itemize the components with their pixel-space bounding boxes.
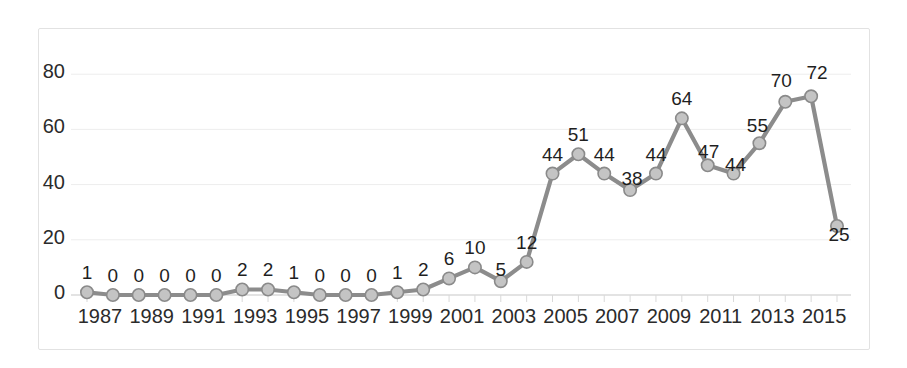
x-axis-tick-label: 2003 [492,305,537,328]
x-axis-tick-label: 1997 [336,305,381,328]
data-point-label: 12 [516,232,537,254]
data-point-label: 55 [747,115,768,137]
data-point-label: 5 [495,259,506,281]
data-point-marker [210,289,222,301]
x-axis-tick-label: 2013 [750,305,795,328]
data-point-label: 51 [568,124,589,146]
data-point-label: 0 [185,265,196,287]
data-point-marker [469,261,481,273]
data-point-marker [184,289,196,301]
data-point-label: 25 [828,224,849,246]
data-point-label: 1 [289,262,300,284]
x-axis-tick-label: 2015 [802,305,847,328]
data-point-marker [417,283,429,295]
data-point-marker [598,167,610,179]
data-point-label: 70 [771,70,792,92]
data-point-label: 0 [340,265,351,287]
x-axis-tick-label: 1999 [388,305,433,328]
data-point-marker [262,283,274,295]
data-point-label: 10 [464,237,485,259]
data-point-label: 0 [211,265,222,287]
x-axis-tick-label: 2005 [543,305,588,328]
data-point-label: 0 [314,265,325,287]
y-axis-tick-label: 40 [25,171,65,194]
data-point-label: 0 [133,265,144,287]
x-axis-tick-label: 2001 [440,305,485,328]
y-axis-tick-label: 20 [25,226,65,249]
data-point-label: 64 [671,88,692,110]
line-chart: 020406080 198719891991199319951997199920… [0,0,907,368]
data-point-marker [158,289,170,301]
data-point-label: 44 [594,144,615,166]
x-axis-tick-label: 1991 [181,305,226,328]
data-point-label: 0 [159,265,170,287]
data-point-label: 38 [622,168,643,190]
data-point-label: 6 [444,248,455,270]
data-point-marker [365,289,377,301]
data-point-label: 44 [645,144,666,166]
data-point-marker [339,289,351,301]
data-point-marker [676,112,688,124]
data-point-marker [81,286,93,298]
data-point-label: 0 [366,265,377,287]
data-point-marker [133,289,145,301]
x-axis-tick-label: 1995 [285,305,330,328]
data-point-marker [805,90,817,102]
data-point-label: 1 [82,262,93,284]
data-point-marker [107,289,119,301]
x-axis-tick-label: 2011 [699,305,742,328]
data-point-marker [288,286,300,298]
data-point-marker [546,167,558,179]
chart-plot-frame: 020406080 198719891991199319951997199920… [38,28,870,350]
data-point-label: 2 [263,259,274,281]
data-point-label: 44 [725,154,746,176]
data-point-marker [443,272,455,284]
data-point-marker [753,137,765,149]
x-axis-tick-label: 2007 [595,305,640,328]
data-point-label: 44 [542,144,563,166]
data-point-label: 2 [418,259,429,281]
data-point-label: 72 [807,62,828,84]
data-point-label: 0 [108,265,119,287]
data-point-marker [520,256,532,268]
data-point-marker [236,283,248,295]
data-series-line [87,96,837,295]
y-axis-tick-label: 60 [25,115,65,138]
chart-canvas [39,29,869,349]
data-point-marker [391,286,403,298]
data-point-label: 1 [392,262,403,284]
data-point-label: 47 [698,141,719,163]
data-point-marker [779,96,791,108]
x-axis-tick-label: 1987 [78,305,123,328]
x-axis-tick-label: 1989 [129,305,174,328]
data-point-label: 2 [237,259,248,281]
data-point-marker [314,289,326,301]
data-point-marker [650,167,662,179]
x-axis-tick-label: 2009 [647,305,692,328]
y-axis-tick-label: 80 [25,60,65,83]
data-point-marker [572,148,584,160]
y-axis-tick-label: 0 [25,281,65,304]
x-axis-tick-label: 1993 [233,305,278,328]
